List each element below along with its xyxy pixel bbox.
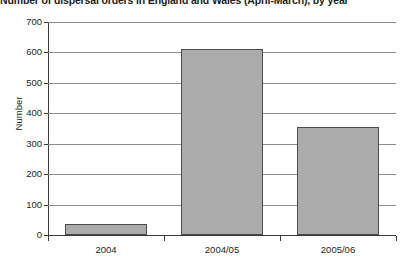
bar [181,49,263,235]
y-axis-tick-label: 100 [0,200,42,210]
x-axis-tick-mark [164,236,165,241]
y-axis-tick-label: 600 [0,47,42,57]
chart-title: Number of dispersal orders in England an… [0,0,414,8]
y-axis-tick-mark [44,113,48,114]
y-axis-tick-mark [44,22,48,23]
y-axis-tick-mark [44,205,48,206]
y-axis-tick-label: 0 [0,230,42,240]
bar [65,224,147,235]
y-axis-tick-mark [44,83,48,84]
x-axis-tick-label: 2004 [48,244,164,256]
gridline [48,22,396,23]
x-axis-tick-label: 2004/05 [164,244,280,256]
chart-figure: Number of dispersal orders in England an… [0,0,414,264]
x-axis-line [48,235,396,236]
y-axis-tick-label: 700 [0,17,42,27]
bar [297,127,379,235]
y-axis-tick-label: 300 [0,139,42,149]
y-axis-tick-mark [44,52,48,53]
y-axis-tick-mark [44,144,48,145]
x-axis-tick-mark [48,236,49,241]
y-axis-tick-label: 400 [0,108,42,118]
x-axis-tick-mark [280,236,281,241]
y-axis-tick-label: 500 [0,78,42,88]
x-axis-tick-mark [396,236,397,241]
x-axis-tick-label: 2005/06 [280,244,396,256]
y-axis-tick-mark [44,174,48,175]
y-axis-tick-label: 200 [0,169,42,179]
